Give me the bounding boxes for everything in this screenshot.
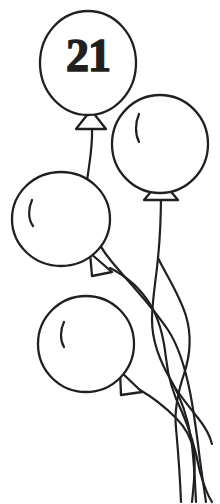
balloon-left-body	[12, 172, 110, 266]
balloon-number-label: 21	[66, 30, 110, 81]
balloon-bunch-illustration: 21	[0, 0, 220, 504]
balloon-bottom-body	[38, 296, 134, 392]
balloon-right-body	[112, 95, 208, 193]
coloring-page-canvas: 21	[0, 0, 220, 504]
